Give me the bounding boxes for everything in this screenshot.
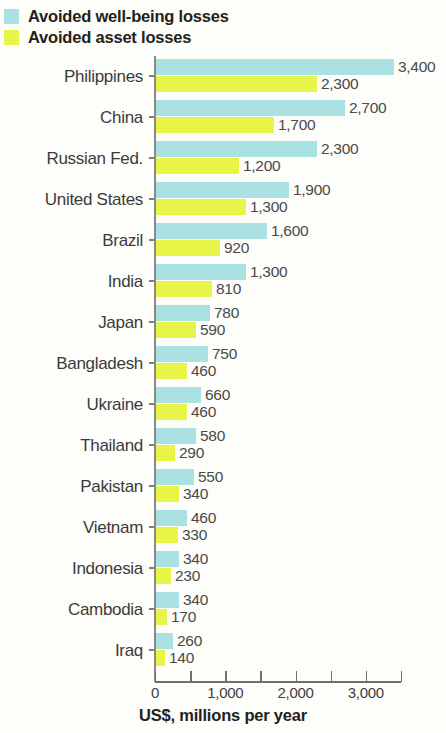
axis-minor-tick — [260, 671, 261, 682]
category-group: Indonesia340230 — [0, 548, 446, 589]
category-label: Ukraine — [0, 384, 143, 425]
bar-value-label: 750 — [212, 345, 237, 363]
bar-pair: 3,4002,300 — [155, 59, 435, 94]
axis-tick-label: 1,000 — [207, 684, 243, 701]
bar-value-label: 340 — [183, 591, 208, 609]
bar-row: 230 — [155, 568, 208, 584]
bar-value-label: 810 — [216, 280, 241, 298]
axis-minor-tick — [190, 671, 191, 682]
bar-pair: 1,300810 — [155, 264, 287, 299]
bar-pair: 1,600920 — [155, 223, 308, 258]
bar-wellbeing — [155, 387, 201, 403]
category-label: Thailand — [0, 425, 143, 466]
category-group: Bangladesh750460 — [0, 343, 446, 384]
category-label: India — [0, 261, 143, 302]
bar-value-label: 1,300 — [250, 198, 287, 216]
category-group: Philippines3,4002,300 — [0, 56, 446, 97]
axis-minor-tick — [331, 671, 332, 682]
bar-value-label: 340 — [183, 550, 208, 568]
bar-value-label: 140 — [169, 649, 194, 667]
bar-asset — [155, 240, 220, 256]
bar-row: 1,600 — [155, 223, 308, 239]
bar-wellbeing — [155, 223, 267, 239]
bar-pair: 1,9001,300 — [155, 182, 330, 217]
legend-swatch-asset — [4, 30, 19, 45]
bar-row: 260 — [155, 633, 202, 649]
bar-chart-plot-area: Philippines3,4002,300China2,7001,700Russ… — [0, 56, 446, 681]
category-group: United States1,9001,300 — [0, 179, 446, 220]
bar-asset — [155, 486, 179, 502]
value-axis-line — [154, 56, 156, 682]
bar-row: 2,300 — [155, 76, 435, 92]
bar-pair: 340230 — [155, 551, 208, 586]
bar-wellbeing — [155, 59, 394, 75]
bar-value-label: 580 — [200, 427, 225, 445]
bar-value-label: 230 — [175, 567, 200, 585]
category-label: Indonesia — [0, 548, 143, 589]
bar-value-label: 330 — [182, 526, 207, 544]
category-label: Pakistan — [0, 466, 143, 507]
category-label: Brazil — [0, 220, 143, 261]
bar-wellbeing — [155, 428, 196, 444]
bar-asset — [155, 199, 246, 215]
bar-wellbeing — [155, 510, 187, 526]
bar-value-label: 550 — [198, 468, 223, 486]
bar-value-label: 290 — [179, 444, 204, 462]
category-label: Japan — [0, 302, 143, 343]
bar-wellbeing — [155, 346, 208, 362]
bar-row: 460 — [155, 510, 216, 526]
bar-pair: 460330 — [155, 510, 216, 545]
category-group: India1,300810 — [0, 261, 446, 302]
bar-row: 1,900 — [155, 182, 330, 198]
axis-title: US$, millions per year — [0, 706, 446, 725]
bar-asset — [155, 527, 178, 543]
bar-value-label: 3,400 — [398, 58, 435, 76]
bar-wellbeing — [155, 469, 194, 485]
bar-row: 290 — [155, 445, 225, 461]
bar-row: 460 — [155, 363, 237, 379]
bar-value-label: 590 — [200, 321, 225, 339]
bar-pair: 340170 — [155, 592, 208, 627]
bar-asset — [155, 76, 317, 92]
legend-label-asset: Avoided asset losses — [28, 28, 191, 47]
legend-label-wellbeing: Avoided well-being losses — [28, 7, 229, 26]
bar-value-label: 2,300 — [321, 140, 358, 158]
bar-value-label: 1,700 — [278, 116, 315, 134]
bar-value-label: 1,200 — [243, 157, 280, 175]
axis-tick-label: 2,000 — [278, 684, 314, 701]
bar-value-label: 460 — [191, 509, 216, 527]
bar-value-label: 660 — [205, 386, 230, 404]
category-label: Cambodia — [0, 589, 143, 630]
bar-asset — [155, 322, 196, 338]
bar-asset — [155, 609, 167, 625]
bar-value-label: 780 — [214, 304, 239, 322]
legend-item-asset: Avoided asset losses — [4, 27, 442, 48]
category-group: Vietnam460330 — [0, 507, 446, 548]
category-label: Bangladesh — [0, 343, 143, 384]
bar-pair: 550340 — [155, 469, 223, 504]
bar-wellbeing — [155, 305, 210, 321]
category-group: Iraq260140 — [0, 630, 446, 671]
bar-pair: 2,3001,200 — [155, 141, 358, 176]
bar-wellbeing — [155, 264, 246, 280]
bar-row: 3,400 — [155, 59, 435, 75]
bar-asset — [155, 281, 212, 297]
category-label: Iraq — [0, 630, 143, 671]
bar-pair: 660460 — [155, 387, 230, 422]
bar-row: 780 — [155, 305, 239, 321]
bar-value-label: 2,700 — [349, 99, 386, 117]
axis-major-tick — [225, 671, 226, 682]
bar-row: 340 — [155, 486, 223, 502]
bar-row: 580 — [155, 428, 225, 444]
bar-wellbeing — [155, 551, 179, 567]
category-group: Ukraine660460 — [0, 384, 446, 425]
category-label: United States — [0, 179, 143, 220]
bar-row: 1,300 — [155, 199, 330, 215]
bar-wellbeing — [155, 633, 173, 649]
bar-asset — [155, 445, 175, 461]
bar-value-label: 1,300 — [250, 263, 287, 281]
category-group: Brazil1,600920 — [0, 220, 446, 261]
bar-row: 920 — [155, 240, 308, 256]
category-group: Cambodia340170 — [0, 589, 446, 630]
bar-value-label: 260 — [177, 632, 202, 650]
